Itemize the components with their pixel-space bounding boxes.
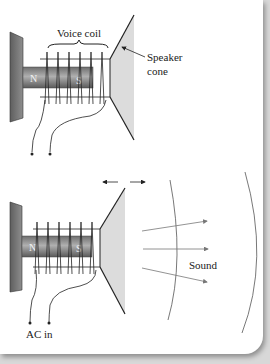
speaker-diagram: N S Voice coil Speaker cone — [0, 0, 270, 364]
back-plate — [10, 32, 23, 122]
top-speaker-diagram: N S Voice coil Speaker cone — [10, 15, 183, 156]
speaker-cone — [100, 188, 125, 314]
magnet-north-label: N — [30, 73, 37, 84]
voice-coil-label: Voice coil — [57, 27, 101, 39]
sound-wavefront — [242, 172, 257, 333]
bottom-speaker-diagram: N S AC in Sound — [10, 172, 257, 340]
sound-wavefront — [168, 180, 177, 320]
speaker-cone — [110, 15, 134, 140]
magnet-south-label: S — [76, 243, 82, 254]
ac-in-label: AC in — [26, 328, 53, 340]
voice-coil-brace — [48, 40, 108, 48]
speaker-label: Speaker — [147, 51, 183, 63]
sound-label: Sound — [189, 259, 218, 271]
magnet-north-label: N — [29, 242, 36, 253]
back-plate — [10, 202, 22, 292]
cone-label: cone — [147, 65, 168, 77]
